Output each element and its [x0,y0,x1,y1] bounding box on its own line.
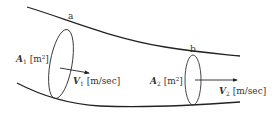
pipe-bottom-wall [17,83,240,107]
velocity-v2-label: V2 [m/sec] [219,86,266,97]
pipe-diagram: a A1 [m2] V1 [m/sec] b A2 [m2] V2 [m/sec… [0,0,275,113]
area-a2-label: A2 [m2] [149,76,183,87]
cross-section-a-ellipse [44,28,78,101]
velocity-v1-label: V1 [m/sec] [73,76,120,87]
velocity-arrow-1 [60,68,89,73]
pipe-top-wall [27,7,240,56]
section-a-label: a [68,11,74,21]
area-a1-label: A1 [m2] [15,54,49,65]
section-b-label: b [190,44,196,54]
